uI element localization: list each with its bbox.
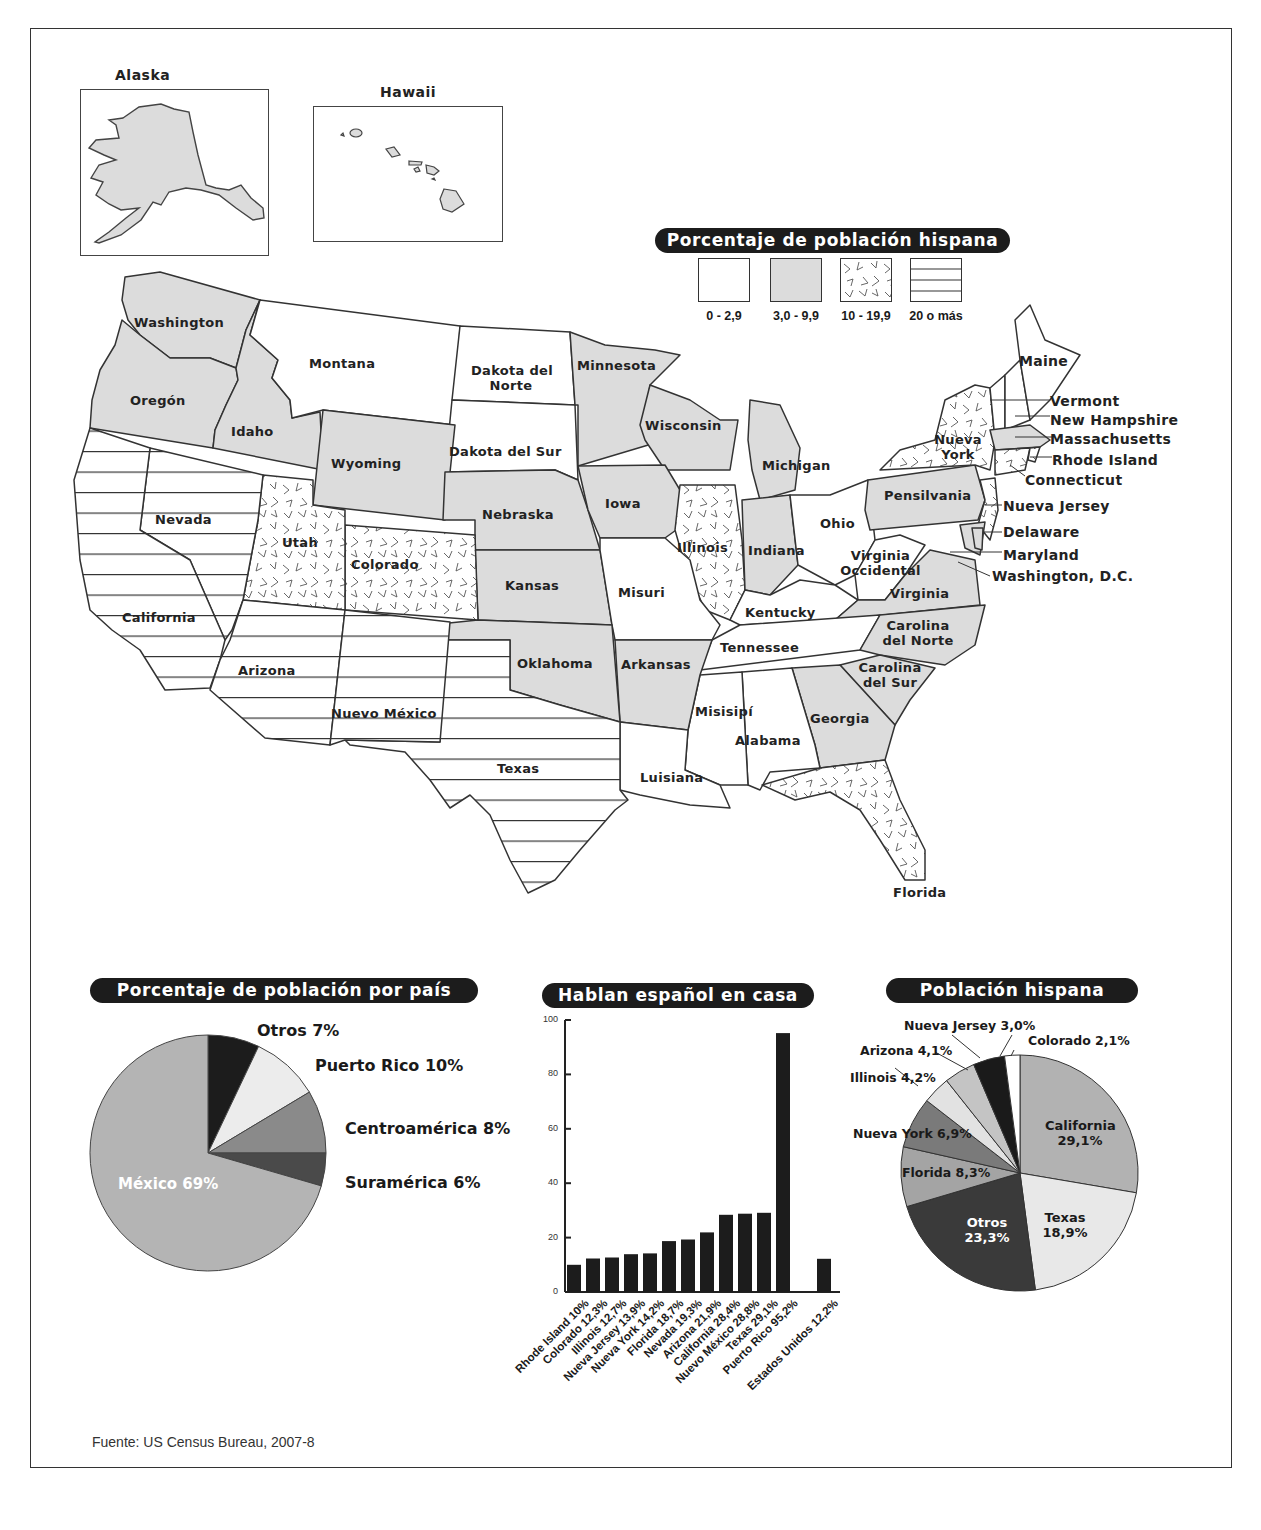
pie2-label-florida: Florida 8,3%	[902, 1165, 990, 1180]
label-nueva-jersey: Nueva Jersey	[1003, 498, 1110, 514]
y-tick-0: 0	[538, 1286, 558, 1296]
pie-label-centroamerica: Centroamérica 8%	[345, 1119, 510, 1138]
label-alabama: Alabama	[735, 733, 801, 748]
label-vermont: Vermont	[1050, 393, 1119, 409]
y-tick-60: 60	[538, 1123, 558, 1133]
label-arizona: Arizona	[238, 663, 296, 678]
bar-chart-title: Hablan español en casa	[542, 983, 814, 1008]
pie-label-puerto-rico: Puerto Rico 10%	[315, 1056, 463, 1075]
state-florida	[762, 760, 925, 880]
pie2-label-otros: Otros23,3%	[962, 1215, 1012, 1245]
label-nuevo-mexico: Nuevo México	[331, 706, 437, 721]
y-tick-20: 20	[538, 1232, 558, 1242]
pie2-label-illinois: Illinois 4,2%	[850, 1070, 936, 1085]
y-tick-80: 80	[538, 1068, 558, 1078]
label-carolina-sur: Carolinadel Sur	[850, 660, 930, 690]
label-misisipi: Misisipí	[695, 704, 753, 719]
label-maine: Maine	[1019, 353, 1068, 369]
label-georgia: Georgia	[810, 711, 869, 726]
label-oklahoma: Oklahoma	[517, 656, 593, 671]
state-new-mexico	[330, 610, 450, 745]
label-carolina-norte: Carolinadel Norte	[878, 618, 958, 648]
bar-chart	[540, 1010, 850, 1300]
pie2-label-nueva-jersey: Nueva Jersey 3,0%	[904, 1018, 1035, 1033]
pie-label-otros: Otros 7%	[257, 1021, 339, 1040]
pie-hispanic-title: Población hispana	[886, 978, 1138, 1003]
pie2-label-california: California29,1%	[1045, 1118, 1115, 1148]
pie-label-mexico: México 69%	[118, 1175, 218, 1193]
y-tick-40: 40	[538, 1177, 558, 1187]
pie-country-title: Porcentaje de población por país	[90, 978, 478, 1003]
label-connecticut: Connecticut	[1025, 472, 1122, 488]
label-florida: Florida	[893, 885, 946, 900]
label-texas: Texas	[497, 761, 539, 776]
y-tick-100: 100	[538, 1014, 558, 1024]
source-note: Fuente: US Census Bureau, 2007-8	[92, 1434, 315, 1450]
label-massachusetts: Massachusetts	[1050, 431, 1171, 447]
pie-label-suramerica: Suramérica 6%	[345, 1173, 481, 1192]
label-arkansas: Arkansas	[621, 657, 691, 672]
label-washington-dc: Washington, D.C.	[992, 568, 1133, 584]
pie2-label-texas: Texas18,9%	[1040, 1210, 1090, 1240]
label-tennessee: Tennessee	[720, 640, 799, 655]
pie2-label-arizona: Arizona 4,1%	[860, 1043, 952, 1058]
label-luisiana: Luisiana	[640, 770, 703, 785]
pie2-label-colorado: Colorado 2,1%	[1028, 1033, 1130, 1048]
pie2-label-nueva-york: Nueva York 6,9%	[853, 1126, 972, 1141]
label-maryland: Maryland	[1003, 547, 1079, 563]
label-delaware: Delaware	[1003, 524, 1080, 540]
label-rhode-island: Rhode Island	[1052, 452, 1158, 468]
label-california: California	[122, 610, 196, 625]
label-new-hampshire: New Hampshire	[1050, 412, 1178, 428]
label-kentucky: Kentucky	[745, 605, 816, 620]
pie-country-chart	[85, 1025, 335, 1275]
